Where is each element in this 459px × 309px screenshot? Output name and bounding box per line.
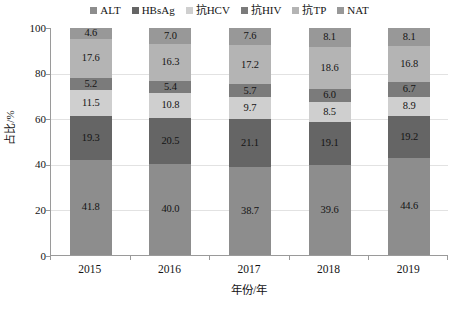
bar-segment-抗HCV[interactable]: 9.7 bbox=[229, 97, 271, 119]
bar-segment-HBsAg[interactable]: 19.1 bbox=[309, 122, 351, 165]
bar-segment-抗HCV[interactable]: 11.5 bbox=[70, 90, 112, 116]
bar-segment-抗TP[interactable]: 17.2 bbox=[229, 45, 271, 84]
bar-value-label: 9.7 bbox=[244, 103, 257, 114]
x-tick-mark bbox=[368, 256, 369, 260]
bar-segment-NAT[interactable]: 7.6 bbox=[229, 28, 271, 45]
x-axis-ticks bbox=[50, 256, 448, 262]
bar-group-2015[interactable]: 41.819.311.55.217.64.6 bbox=[70, 28, 112, 255]
x-tick-label-2019: 2019 bbox=[378, 263, 438, 275]
x-tick-label-2016: 2016 bbox=[139, 263, 199, 275]
bar-segment-抗TP[interactable]: 16.8 bbox=[388, 46, 430, 83]
bar-value-label: 7.6 bbox=[244, 31, 257, 42]
bar-group-2018[interactable]: 39.619.18.56.018.68.1 bbox=[309, 28, 351, 255]
x-tick-mark bbox=[447, 256, 448, 260]
y-tick-label: 40 bbox=[12, 159, 46, 170]
bar-segment-NAT[interactable]: 8.1 bbox=[309, 28, 351, 46]
bar-value-label: 18.6 bbox=[321, 63, 339, 74]
x-tick-label-2018: 2018 bbox=[299, 263, 359, 275]
bar-segment-NAT[interactable]: 4.6 bbox=[70, 28, 112, 38]
bar-value-label: 4.6 bbox=[84, 28, 97, 39]
y-tick-label: 20 bbox=[12, 205, 46, 216]
bar-segment-HBsAg[interactable]: 21.1 bbox=[229, 119, 271, 167]
bar-stack: 44.619.28.96.716.88.1 bbox=[388, 28, 430, 255]
bar-segment-抗HCV[interactable]: 8.5 bbox=[309, 102, 351, 121]
bar-value-label: 8.1 bbox=[403, 32, 416, 43]
bar-value-label: 6.0 bbox=[323, 90, 336, 101]
bar-value-label: 40.0 bbox=[161, 204, 179, 215]
bar-value-label: 39.6 bbox=[321, 205, 339, 216]
bar-segment-HBsAg[interactable]: 20.5 bbox=[149, 118, 191, 165]
x-tick-mark bbox=[289, 256, 290, 260]
bar-segment-抗HIV[interactable]: 5.2 bbox=[70, 78, 112, 90]
x-tick-mark bbox=[209, 256, 210, 260]
bar-segment-抗HCV[interactable]: 10.8 bbox=[149, 93, 191, 118]
y-tick-label: 80 bbox=[12, 68, 46, 79]
bar-value-label: 38.7 bbox=[241, 206, 259, 217]
bar-value-label: 19.2 bbox=[400, 132, 418, 143]
stacked-bar-chart: ALTHBsAg抗HCV抗HIV抗TPNAT 020406080100 占比/%… bbox=[0, 0, 459, 309]
bar-value-label: 8.9 bbox=[403, 101, 416, 112]
bar-value-label: 17.6 bbox=[82, 53, 100, 64]
x-axis-title: 年份/年 bbox=[50, 284, 448, 296]
bar-group-2017[interactable]: 38.721.19.75.717.27.6 bbox=[229, 28, 271, 255]
bar-segment-抗TP[interactable]: 17.6 bbox=[70, 39, 112, 79]
bar-group-2019[interactable]: 44.619.28.96.716.88.1 bbox=[388, 28, 430, 255]
bar-stack: 41.819.311.55.217.64.6 bbox=[70, 28, 112, 255]
bar-stack: 39.619.18.56.018.68.1 bbox=[309, 28, 351, 255]
bar-value-label: 41.8 bbox=[82, 202, 100, 213]
bar-segment-抗HIV[interactable]: 5.7 bbox=[229, 84, 271, 97]
bar-value-label: 8.1 bbox=[323, 32, 336, 43]
bar-value-label: 8.5 bbox=[323, 107, 336, 118]
bar-value-label: 16.8 bbox=[400, 59, 418, 70]
x-tick-label-2015: 2015 bbox=[60, 263, 120, 275]
bar-segment-ALT[interactable]: 40.0 bbox=[149, 164, 191, 255]
bar-segment-抗HIV[interactable]: 5.4 bbox=[149, 81, 191, 93]
bar-segment-ALT[interactable]: 38.7 bbox=[229, 167, 271, 255]
bar-segment-抗HIV[interactable]: 6.0 bbox=[309, 89, 351, 103]
bar-segment-NAT[interactable]: 8.1 bbox=[388, 28, 430, 46]
bar-segment-抗HIV[interactable]: 6.7 bbox=[388, 82, 430, 97]
bar-segment-NAT[interactable]: 7.0 bbox=[149, 28, 191, 44]
bar-value-label: 10.8 bbox=[161, 100, 179, 111]
bar-value-label: 7.0 bbox=[164, 31, 177, 42]
x-axis: 20152016201720182019 bbox=[50, 263, 448, 277]
bar-segment-ALT[interactable]: 41.8 bbox=[70, 160, 112, 255]
bar-segment-HBsAg[interactable]: 19.2 bbox=[388, 116, 430, 158]
bar-value-label: 16.3 bbox=[161, 57, 179, 68]
x-tick-label-2017: 2017 bbox=[219, 263, 279, 275]
bar-segment-抗TP[interactable]: 16.3 bbox=[149, 44, 191, 81]
bar-segment-抗TP[interactable]: 18.6 bbox=[309, 47, 351, 89]
bar-value-label: 5.4 bbox=[164, 82, 177, 93]
bar-value-label: 6.7 bbox=[403, 84, 416, 95]
bar-segment-HBsAg[interactable]: 19.3 bbox=[70, 116, 112, 160]
bar-stack: 38.721.19.75.717.27.6 bbox=[229, 28, 271, 255]
bar-value-label: 19.3 bbox=[82, 133, 100, 144]
y-tick-label: 60 bbox=[12, 114, 46, 125]
bar-segment-抗HCV[interactable]: 8.9 bbox=[388, 97, 430, 116]
bar-segment-ALT[interactable]: 39.6 bbox=[309, 165, 351, 255]
bar-stack: 40.020.510.85.416.37.0 bbox=[149, 28, 191, 255]
bar-value-label: 20.5 bbox=[161, 136, 179, 147]
y-axis-title: 占比/% bbox=[5, 98, 16, 158]
bar-value-label: 5.2 bbox=[84, 79, 97, 90]
plot-area: 41.819.311.55.217.64.640.020.510.85.416.… bbox=[50, 28, 448, 256]
x-tick-mark bbox=[50, 256, 51, 260]
bar-value-label: 5.7 bbox=[244, 86, 257, 97]
y-tick-label: 0 bbox=[12, 251, 46, 262]
bar-value-label: 11.5 bbox=[82, 98, 100, 109]
bar-group-2016[interactable]: 40.020.510.85.416.37.0 bbox=[149, 28, 191, 255]
bar-segment-ALT[interactable]: 44.6 bbox=[388, 158, 430, 255]
bar-value-label: 17.2 bbox=[241, 60, 259, 71]
y-tick-label: 100 bbox=[12, 23, 46, 34]
bar-value-label: 19.1 bbox=[321, 138, 339, 149]
bar-value-label: 21.1 bbox=[241, 138, 259, 149]
x-tick-mark bbox=[130, 256, 131, 260]
bar-value-label: 44.6 bbox=[400, 201, 418, 212]
